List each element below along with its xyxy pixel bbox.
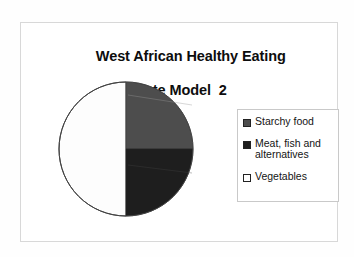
pie-slice-starchy-food: [126, 82, 193, 149]
legend-swatch-meat-fish-alternatives: [243, 141, 251, 149]
chart-title-line-1: West African Healthy Eating: [96, 48, 286, 64]
legend-item-starchy-food: Starchy food: [243, 116, 334, 128]
pie-slice-meat-fish-alternatives: [126, 149, 193, 216]
legend-item-meat-fish-alternatives: Meat, fish and alternatives: [243, 138, 334, 161]
pie-chart: [58, 81, 194, 217]
pie-chart-svg: [58, 81, 194, 217]
scanned-slide-page: West African Healthy Eating Plate Model …: [0, 0, 354, 257]
legend-label-starchy-food: Starchy food: [255, 116, 314, 128]
legend-item-vegetables: Vegetables: [243, 171, 334, 183]
legend-swatch-starchy-food: [243, 119, 251, 127]
legend-label-vegetables: Vegetables: [255, 171, 307, 183]
pie-slice-vegetables: [59, 82, 126, 216]
chart-frame: West African Healthy Eating Plate Model …: [20, 22, 338, 242]
legend-swatch-vegetables: [243, 174, 251, 182]
legend-label-meat-fish-alternatives: Meat, fish and alternatives: [255, 138, 334, 161]
chart-legend: Starchy food Meat, fish and alternatives…: [237, 109, 339, 202]
